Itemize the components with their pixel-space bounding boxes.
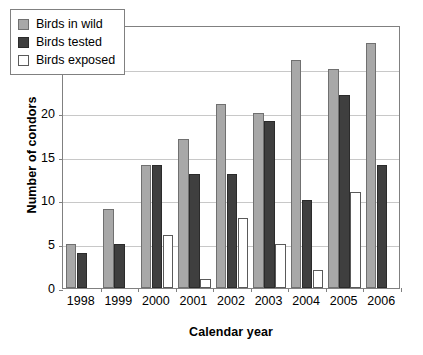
legend-item-exposed: Birds exposed	[18, 51, 115, 69]
y-axis-title: Number of condors	[25, 45, 39, 265]
bar-wild-2004	[291, 60, 302, 288]
bar-wild-2006	[366, 43, 377, 288]
x-tick-label: 2006	[362, 295, 400, 308]
x-tick-label: 2000	[137, 295, 175, 308]
x-tick-label: 2002	[212, 295, 250, 308]
legend: Birds in wildBirds testedBirds exposed	[10, 9, 125, 75]
bar-tested-2003	[264, 121, 275, 288]
bar-group	[138, 27, 176, 288]
bar-group	[213, 27, 251, 288]
x-tick-mark	[176, 288, 177, 292]
bar-group	[363, 27, 401, 288]
bar-wild-2005	[328, 69, 339, 288]
legend-label: Birds in wild	[36, 18, 103, 31]
legend-item-tested: Birds tested	[18, 33, 115, 51]
x-tick-mark	[213, 288, 214, 292]
bar-group	[176, 27, 214, 288]
x-tick-mark	[326, 288, 327, 292]
x-tick-mark	[138, 288, 139, 292]
x-tick-label: 2001	[175, 295, 213, 308]
bar-wild-2002	[216, 104, 227, 288]
bar-wild-1999	[103, 209, 114, 288]
bar-tested-1998	[77, 253, 88, 288]
legend-swatch-icon-exposed	[18, 55, 29, 66]
y-tick-label: 0	[14, 283, 55, 295]
bar-wild-2003	[253, 113, 264, 288]
bar-exposed-2005	[350, 192, 361, 288]
legend-label: Birds tested	[36, 36, 102, 49]
legend-swatch-icon-tested	[18, 37, 29, 48]
legend-swatch-icon-wild	[18, 19, 29, 30]
x-tick-label: 1998	[62, 295, 100, 308]
legend-item-wild: Birds in wild	[18, 15, 115, 33]
x-tick-mark	[401, 288, 402, 292]
bar-exposed-2000	[163, 235, 174, 288]
bar-tested-2002	[227, 174, 238, 288]
bar-tested-2004	[302, 200, 313, 288]
bar-group	[251, 27, 289, 288]
x-tick-mark	[363, 288, 364, 292]
bar-tested-2000	[152, 165, 163, 288]
x-tick-mark	[251, 288, 252, 292]
y-tick-mark	[59, 290, 63, 291]
bar-tested-1999	[114, 244, 125, 288]
x-tick-mark	[101, 288, 102, 292]
legend-label: Birds exposed	[36, 54, 115, 67]
bar-group	[288, 27, 326, 288]
x-tick-label: 2004	[287, 295, 325, 308]
x-tick-label: 1999	[100, 295, 138, 308]
condor-bar-chart: Number of condors 051015202530 199819992…	[0, 0, 423, 355]
x-tick-label: 2003	[250, 295, 288, 308]
bar-tested-2005	[339, 95, 350, 288]
bar-tested-2001	[189, 174, 200, 288]
bar-group	[326, 27, 364, 288]
bar-exposed-2003	[275, 244, 286, 288]
bar-exposed-2001	[200, 279, 211, 288]
bar-exposed-2002	[238, 218, 249, 288]
x-axis-title: Calendar year	[62, 325, 400, 339]
bar-wild-1998	[66, 244, 77, 288]
bar-tested-2006	[377, 165, 388, 288]
x-tick-label: 2005	[325, 295, 363, 308]
bar-exposed-2004	[313, 270, 324, 288]
x-tick-mark	[288, 288, 289, 292]
bar-wild-2000	[141, 165, 152, 288]
bar-wild-2001	[178, 139, 189, 288]
